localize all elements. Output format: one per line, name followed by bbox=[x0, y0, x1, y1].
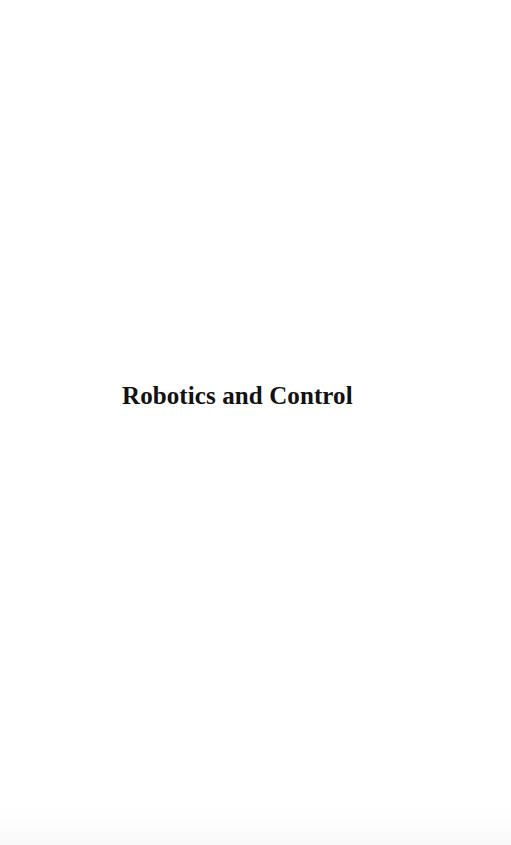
page-title: Robotics and Control bbox=[122, 380, 353, 412]
book-page: Robotics and Control bbox=[0, 0, 511, 845]
scan-artifact bbox=[0, 805, 511, 845]
